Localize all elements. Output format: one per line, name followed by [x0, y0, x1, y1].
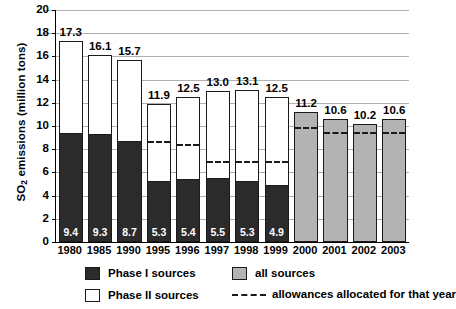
bar-2003: 10.6	[382, 119, 406, 242]
bar-1990: 8.715.7	[117, 60, 141, 242]
bar-segment-phase-i: 5.5	[206, 178, 230, 242]
bar-2002: 10.2	[353, 124, 377, 242]
bar-total-label: 17.3	[50, 27, 92, 39]
legend-item-phase-ii: Phase II sources	[85, 289, 199, 302]
bar-1997: 5.513.0	[206, 91, 230, 242]
legend-swatch-white-icon	[85, 289, 100, 302]
bar-2001: 10.6	[323, 119, 347, 242]
bar-1980: 9.417.3	[59, 41, 83, 242]
bar-segment-all-sources	[323, 119, 347, 242]
chart-legend: Phase I sourcesall sourcesPhase II sourc…	[0, 265, 421, 309]
bar-segment-phase-i: 4.9	[265, 185, 289, 242]
y-axis-tick-label: 0	[43, 236, 49, 248]
y-axis-tick-label: 2	[43, 213, 49, 225]
legend-item-allowances: allowances allocated for that year	[232, 289, 456, 301]
legend-label: Phase I sources	[108, 268, 196, 280]
bar-segment-all-sources	[353, 124, 377, 242]
legend-swatch-dashed-line-icon	[232, 294, 266, 296]
bar-total-label: 10.6	[373, 105, 415, 117]
y-axis-tick-label: 16	[36, 51, 49, 63]
y-axis-tick-label: 14	[36, 74, 49, 86]
bar-value-label-phase-i: 9.3	[89, 227, 111, 238]
y-axis-tick-label: 18	[36, 27, 49, 39]
y-axis-tick	[52, 80, 56, 81]
y-axis-title-suffix: emissions (million tons)	[15, 43, 27, 180]
legend-label: Phase II sources	[108, 290, 199, 302]
allowance-line-1997	[207, 161, 229, 163]
y-axis-title: SO2 emissions (million tons)	[15, 7, 27, 237]
bar-segment-phase-i: 5.3	[147, 181, 171, 242]
x-axis-label-2000: 2000	[290, 245, 319, 256]
y-axis-tick-label: 20	[36, 4, 49, 16]
y-axis-tick	[52, 172, 56, 173]
bar-1996: 5.412.5	[176, 97, 200, 242]
y-axis-tick-label: 8	[43, 143, 49, 155]
gridline	[44, 10, 409, 11]
y-axis-tick	[52, 149, 56, 150]
y-axis-tick	[52, 219, 56, 220]
legend-swatch-gray-icon	[232, 267, 247, 280]
y-axis-tick	[52, 10, 56, 11]
y-axis-tick-label: 12	[36, 97, 49, 109]
allowance-line-2002	[354, 132, 376, 134]
legend-label: all sources	[255, 268, 315, 280]
y-axis-tick	[52, 196, 56, 197]
bar-value-label-phase-i: 5.4	[177, 227, 199, 238]
bar-value-label-phase-i: 5.3	[148, 227, 170, 238]
allowance-line-2003	[383, 132, 405, 134]
bar-segment-phase-i: 9.3	[88, 134, 112, 242]
x-axis-label-1998: 1998	[232, 245, 261, 256]
y-axis-title-prefix: SO	[15, 185, 27, 202]
bar-total-label: 15.7	[108, 46, 150, 58]
bar-1995: 5.311.9	[147, 104, 171, 242]
bar-value-label-phase-i: 8.7	[118, 227, 140, 238]
bar-total-label: 12.5	[256, 83, 298, 95]
y-axis-tick	[52, 56, 56, 57]
x-axis-label-2002: 2002	[349, 245, 378, 256]
bar-1985: 9.316.1	[88, 55, 112, 242]
x-axis-label-1985: 1985	[84, 245, 113, 256]
bar-2000: 11.2	[294, 112, 318, 242]
y-axis-tick	[52, 126, 56, 127]
gridline	[44, 33, 409, 34]
bar-segment-all-sources	[294, 112, 318, 242]
legend-swatch-dark-icon	[85, 267, 100, 280]
y-axis-tick-label: 10	[36, 120, 49, 132]
x-axis-label-2003: 2003	[379, 245, 408, 256]
y-axis-tick	[52, 103, 56, 104]
allowance-line-2001	[324, 132, 346, 134]
bar-value-label-phase-i: 5.5	[207, 227, 229, 238]
bar-segment-all-sources	[382, 119, 406, 242]
y-axis-tick-label: 6	[43, 167, 49, 179]
legend-item-all-sources: all sources	[232, 267, 315, 280]
allowance-line-1996	[177, 144, 199, 146]
bar-segment-phase-i: 9.4	[59, 133, 83, 242]
x-axis-label-1980: 1980	[55, 245, 84, 256]
bar-segment-phase-i: 5.3	[235, 181, 259, 242]
x-axis-label-2001: 2001	[320, 245, 349, 256]
y-axis-tick-label: 4	[43, 190, 49, 202]
allowance-line-2000	[295, 127, 317, 129]
bar-1999: 4.912.5	[265, 97, 289, 242]
x-axis-label-1997: 1997	[202, 245, 231, 256]
allowance-line-1995	[148, 141, 170, 143]
x-axis-label-1990: 1990	[114, 245, 143, 256]
allowance-line-1999	[266, 161, 288, 163]
plot-area: 024681012141618209.417.39.316.18.715.75.…	[55, 10, 409, 243]
bar-value-label-phase-i: 5.3	[236, 227, 258, 238]
x-axis-label-1999: 1999	[261, 245, 290, 256]
x-axis-label-1995: 1995	[143, 245, 172, 256]
x-axis-label-1996: 1996	[173, 245, 202, 256]
legend-label: allowances allocated for that year	[272, 289, 456, 301]
allowance-line-1998	[236, 161, 258, 163]
y-axis-title-subscript: 2	[19, 180, 29, 185]
bar-segment-phase-i: 5.4	[176, 179, 200, 242]
bar-value-label-phase-i: 9.4	[60, 227, 82, 238]
bar-value-label-phase-i: 4.9	[266, 227, 288, 238]
bar-segment-phase-i: 8.7	[117, 141, 141, 242]
legend-item-phase-i: Phase I sources	[85, 267, 196, 280]
y-axis-tick	[52, 242, 56, 243]
bar-1998: 5.313.1	[235, 90, 259, 242]
